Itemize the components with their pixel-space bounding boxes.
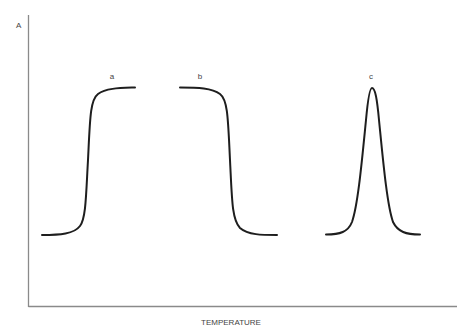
curve-a	[42, 88, 135, 236]
curve-c	[326, 88, 420, 235]
y-axis-label: A	[16, 21, 22, 30]
curve-b-label: b	[198, 72, 203, 81]
curve-a-label: a	[110, 72, 115, 81]
curve-b	[180, 88, 277, 236]
curve-c-label: c	[369, 72, 373, 81]
x-axis-label: TEMPERATURE	[201, 318, 261, 327]
chart: A TEMPERATURE a b c	[0, 0, 474, 330]
